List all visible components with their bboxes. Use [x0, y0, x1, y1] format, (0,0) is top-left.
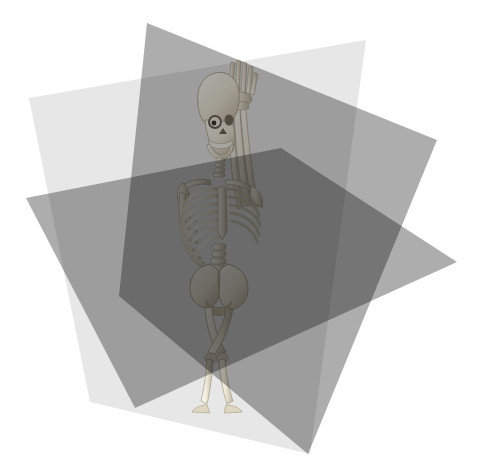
scene-canvas: Sagittal plane — [0, 0, 478, 468]
anatomical-planes-figure: Sagittal plane — [0, 0, 478, 468]
